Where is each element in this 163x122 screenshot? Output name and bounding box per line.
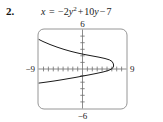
equation-lhs: x (41, 6, 45, 17)
calculator-screen-figure: 6 −6 −9 9 (0, 20, 163, 122)
x-min-label: −9 (25, 64, 35, 74)
problem-figure: 2. x = −2y2+10y−7 (0, 0, 163, 122)
equation-expression: x = −2y2+10y−7 (41, 6, 111, 18)
x-max-label: 9 (130, 64, 135, 74)
equation-equals: = (48, 6, 56, 17)
graph-svg: 6 −6 −9 9 (0, 20, 163, 122)
equation-term1-coefficient: −2 (58, 6, 69, 17)
y-min-label: −6 (78, 111, 88, 121)
parabola-curve (39, 39, 114, 83)
problem-number: 2. (6, 5, 14, 17)
equation-term2-coefficient: 10 (84, 6, 94, 17)
equation-term3-constant: 7 (106, 6, 111, 17)
y-max-label: 6 (80, 20, 85, 29)
